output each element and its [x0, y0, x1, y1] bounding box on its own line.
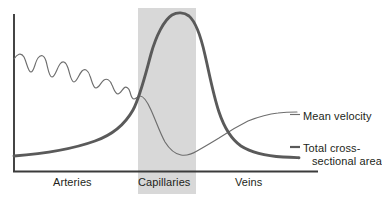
x-axis-label-veins: Veins [235, 176, 262, 188]
legend-label-mean-velocity: Mean velocity [303, 110, 372, 123]
legend-label-total-area-line2: sectional area [303, 155, 382, 168]
x-axis-label-arteries: Arteries [53, 176, 92, 188]
legend-label-total-cross-sectional-area: Total cross-sectional area [303, 142, 382, 167]
legend-label-total-area-line1: Total cross- [303, 142, 360, 154]
x-axis-label-capillaries: Capillaries [138, 176, 190, 188]
